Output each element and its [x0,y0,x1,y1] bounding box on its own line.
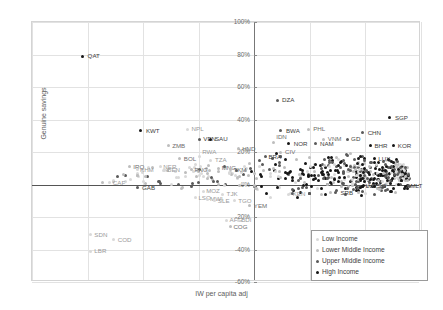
data-point [238,184,241,187]
data-point [194,196,197,199]
data-point [258,159,261,162]
data-point [329,169,332,172]
data-point-label: SDN [94,232,107,238]
data-point [253,172,256,175]
data-point-label: NOR [294,141,308,147]
data-point-label: CIV [285,149,295,155]
data-point [128,165,131,168]
data-point [206,198,209,201]
data-point-label: SGP [395,115,408,121]
data-point [308,192,311,195]
data-point [314,142,317,145]
legend-label: Low Income [322,236,358,243]
data-point-label: SAU [215,136,228,142]
data-point-label: QAT [88,53,100,59]
data-point [345,164,348,167]
data-point [373,157,376,160]
data-point [241,182,244,185]
data-point-label: RWA [202,149,216,155]
legend-label: Lower Middle Income [322,247,385,254]
data-point [139,129,142,132]
data-point [298,173,301,176]
data-point-label: SRB [340,190,353,196]
data-point [359,155,362,158]
data-point [360,194,363,197]
data-point [374,167,377,170]
y-axis-tick-mark [254,250,257,251]
data-point [217,167,220,170]
data-point [388,116,391,119]
data-point [391,177,394,180]
data-point-label: IDN [276,134,287,140]
data-point [301,186,304,189]
data-point [361,190,364,193]
data-point-label: HND [242,146,255,152]
data-point [323,164,326,167]
data-point [178,157,181,160]
data-point [375,163,378,166]
data-point-label: LUX [378,156,390,162]
data-point [369,178,372,181]
data-point-label: YEM [254,203,267,209]
data-point [81,55,84,58]
y-axis-tick-mark [254,120,257,121]
data-point [112,238,115,241]
data-point [278,164,281,167]
data-point [310,185,313,188]
data-point [406,187,409,190]
data-point [259,173,262,176]
data-point [320,193,323,196]
data-point-label: SLE [218,198,230,204]
data-point [347,175,350,178]
data-point [274,163,277,166]
data-point [258,165,261,168]
data-point-label: PNG [194,167,207,173]
data-point-label: BEN [167,167,180,173]
data-point-label: GD [351,136,360,142]
data-point [361,131,364,134]
data-point [276,99,279,102]
data-point [248,204,251,207]
data-point [334,191,337,194]
data-point [136,186,139,189]
data-point [144,175,147,178]
data-point-label: DZA [282,97,294,103]
data-point [313,170,316,173]
vertical-gridline [32,22,33,280]
data-point [377,174,380,177]
data-point [202,175,205,178]
data-point [228,172,231,175]
data-point [366,177,369,180]
y-axis-tick-label: 80% [224,52,250,58]
data-point [265,192,268,195]
data-point [274,170,277,173]
legend: Low IncomeLower Middle IncomeUpper Middl… [311,230,428,281]
data-point [400,179,403,182]
data-point-label: ZMB [172,143,185,149]
data-point-label: BRA [268,154,281,160]
legend-item-low[interactable]: Low Income [316,234,427,245]
data-point [309,165,312,168]
data-point-label: GAB [142,185,155,191]
legend-label: Upper Middle Income [322,258,385,265]
data-point-label: PHL [313,126,325,132]
legend-item-uppmid[interactable]: Upper Middle Income [316,256,427,267]
data-point [373,185,376,188]
y-axis-tick-mark [254,87,257,88]
data-point [278,170,281,173]
data-point [390,190,393,193]
data-point [349,169,352,172]
data-point [209,159,212,162]
data-point [136,168,139,171]
data-point-label: MLT [410,183,422,189]
data-point [158,180,161,183]
legend-item-high[interactable]: High Income [316,267,427,278]
data-point-label: TZA [215,157,227,163]
legend-item-lowmid[interactable]: Lower Middle Income [316,245,427,256]
data-point-label: LBR [94,248,106,254]
data-point [212,180,215,183]
data-point [217,183,220,186]
data-point [284,177,287,180]
data-point [184,175,187,178]
data-point [361,185,364,188]
